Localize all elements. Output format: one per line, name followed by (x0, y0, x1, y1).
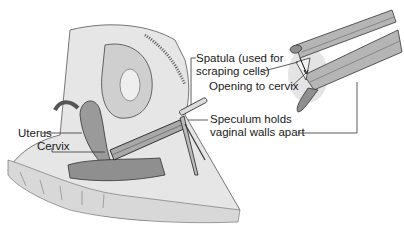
label-uterus: Uterus (18, 127, 52, 140)
close-up-inset (288, 10, 402, 112)
label-cervix: Cervix (37, 140, 70, 153)
bladder-inner (120, 69, 140, 101)
label-spatula-line2: scraping cells) (196, 65, 284, 78)
label-speculum-line2: vaginal walls apart (210, 126, 305, 139)
label-spatula-line1: Spatula (used for (196, 52, 284, 65)
pap-smear-diagram: Spatula (used for scraping cells) Openin… (0, 0, 404, 232)
label-spatula: Spatula (used for scraping cells) (196, 52, 284, 78)
label-speculum: Speculum holds vaginal walls apart (210, 113, 305, 139)
label-speculum-line1: Speculum holds (210, 113, 305, 126)
anatomy-illustration (0, 0, 404, 232)
label-opening-to-cervix: Opening to cervix (209, 80, 299, 93)
